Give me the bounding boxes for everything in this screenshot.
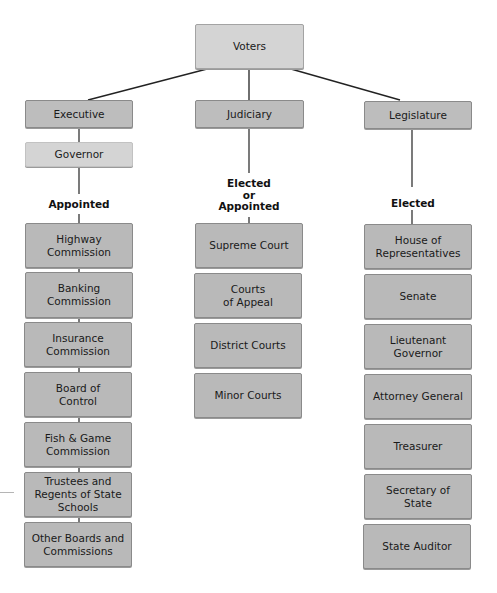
office-courts-of-appeal: Courts of Appeal (194, 273, 302, 318)
office-insurance-commission: Insurance Commission (24, 322, 132, 367)
office-lieutenant-governor: Lieutenant Governor (364, 324, 472, 369)
office-treasurer: Treasurer (364, 424, 472, 469)
office-banking-commission: Banking Commission (25, 272, 133, 318)
office-fish-game-commission: Fish & Game Commission (24, 422, 132, 467)
office-label: Treasurer (394, 440, 443, 453)
governor-label: Governor (55, 148, 104, 161)
elected-label: Elected (374, 197, 452, 209)
voters-box: Voters (195, 24, 304, 69)
office-attorney-general: Attorney General (364, 374, 472, 419)
office-highway-commission: Highway Commission (25, 223, 133, 268)
office-label: House of Representatives (376, 234, 461, 260)
office-other-boards: Other Boards and Commissions (24, 522, 132, 567)
office-secretary-of-state: Secretary of State (364, 474, 472, 519)
office-trustees-regents: Trustees and Regents of State Schools (24, 472, 132, 517)
office-label: Secretary of State (386, 484, 450, 510)
office-label: Lieutenant Governor (390, 334, 446, 360)
office-label: Attorney General (373, 390, 463, 403)
office-label: District Courts (210, 339, 285, 352)
voters-label: Voters (233, 40, 266, 53)
elected-or-appointed-label: Elected or Appointed (210, 178, 288, 213)
legislature-box: Legislature (364, 101, 472, 129)
office-supreme-court: Supreme Court (195, 223, 303, 268)
office-house-of-representatives: House of Representatives (364, 224, 472, 269)
office-label: Fish & Game Commission (45, 432, 111, 458)
office-label: Other Boards and Commissions (32, 532, 125, 558)
office-label: Minor Courts (214, 389, 281, 402)
office-label: Banking Commission (47, 282, 111, 308)
office-label: Highway Commission (47, 233, 111, 259)
office-label: Supreme Court (209, 239, 288, 252)
office-label: Insurance Commission (46, 332, 110, 358)
office-label: Board of Control (56, 382, 100, 408)
office-label: Trustees and Regents of State Schools (34, 475, 121, 514)
office-board-of-control: Board of Control (24, 372, 132, 417)
office-minor-courts: Minor Courts (194, 373, 302, 418)
executive-box: Executive (25, 100, 133, 128)
state-government-org-chart: Voters Executive Judiciary Legislature G… (0, 0, 497, 593)
judiciary-label: Judiciary (227, 108, 272, 121)
office-district-courts: District Courts (194, 323, 302, 368)
office-label: Senate (400, 290, 437, 303)
governor-box: Governor (25, 142, 133, 167)
judiciary-box: Judiciary (195, 100, 304, 128)
office-state-auditor: State Auditor (363, 524, 471, 569)
appointed-label: Appointed (40, 198, 118, 210)
margin-tick (0, 492, 14, 493)
legislature-label: Legislature (389, 109, 447, 122)
office-label: State Auditor (382, 540, 451, 553)
executive-label: Executive (53, 108, 104, 121)
office-label: Courts of Appeal (223, 283, 273, 309)
office-senate: Senate (364, 274, 472, 319)
